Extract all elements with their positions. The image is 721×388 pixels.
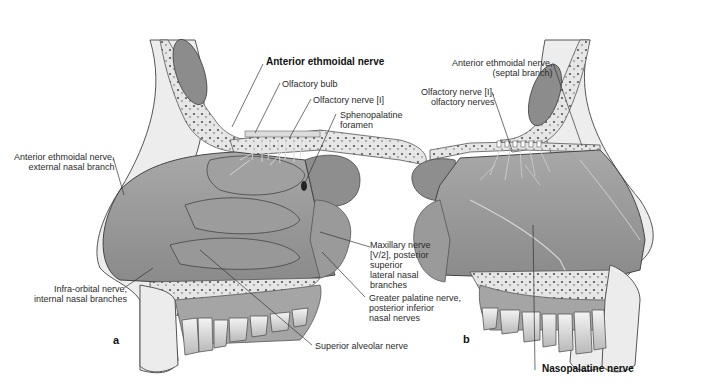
label-anterior-ethmoidal-nerve: Anterior ethmoidal nerve [266,57,384,67]
label-superior-alveolar-nerve: Superior alveolar nerve [315,341,408,351]
label-olfactory-nerves: Olfactory nerve [I], olfactory nerves [421,87,495,107]
label-maxillary-nerve-posterior-superior-lateral-nasal: Maxillary nerve [V/2], posterior superio… [370,240,431,290]
panel-letter-b: b [463,333,470,345]
nasal-nerves-figure: Anterior ethmoidal nerve Olfactory bulb … [0,0,721,388]
panel-letter-a: a [113,334,119,346]
label-infra-orbital-internal-nasal-branches: Infra-orbital nerve, internal nasal bran… [34,284,127,304]
label-olfactory-nerve-i: Olfactory nerve [I] [313,95,384,105]
label-anterior-ethmoidal-septal-branch: Anterior ethmoidal nerve, (septal branch… [452,58,553,78]
label-olfactory-bulb: Olfactory bulb [282,79,338,89]
label-nasopalatine-nerve: Nasopalatine nerve [542,364,634,374]
label-anterior-ethmoidal-external-nasal-branch: Anterior ethmoidal nerve, external nasal… [14,152,115,172]
label-sphenopalatine-foramen: Sphenopalatine foramen [340,110,403,130]
label-greater-palatine-posterior-inferior-nasal: Greater palatine nerve, posterior inferi… [369,293,461,323]
